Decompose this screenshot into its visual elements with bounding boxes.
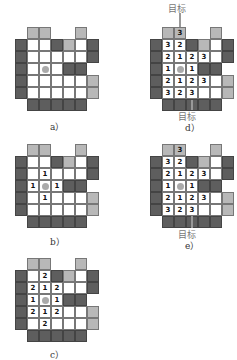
grid-cell — [87, 99, 99, 111]
grid-cell — [75, 204, 87, 216]
grid-cell: 3 — [162, 39, 174, 51]
grid-cell — [75, 318, 87, 330]
grid-cell — [198, 99, 210, 111]
grid-cell — [186, 39, 198, 51]
grid-cell — [150, 75, 162, 87]
grid-cell — [75, 294, 87, 306]
grid-cell — [63, 168, 75, 180]
grid-cell — [63, 99, 75, 111]
grid-cell — [39, 87, 51, 99]
grid-cell — [63, 318, 75, 330]
grid-cell — [198, 27, 210, 39]
start-dot-icon — [42, 66, 49, 73]
grid-cell — [198, 87, 210, 99]
grid-cell — [63, 87, 75, 99]
grid-cell: 3 — [186, 87, 198, 99]
grid-cell — [210, 63, 222, 75]
grid-cell: 1 — [27, 294, 39, 306]
grid-a — [15, 27, 99, 111]
grid-cell — [63, 75, 75, 87]
grid-cell — [15, 99, 27, 111]
grid-cell — [87, 216, 99, 228]
grid-cell: 2 — [174, 39, 186, 51]
grid-cell — [75, 270, 87, 282]
grid-cell: 3 — [198, 51, 210, 63]
grid-cell: 3 — [186, 204, 198, 216]
grid-cell — [15, 39, 27, 51]
grid-cell — [15, 180, 27, 192]
grid-cell — [63, 156, 75, 168]
grid-c: 2212112122 — [15, 258, 99, 342]
grid-cell — [150, 87, 162, 99]
grid-cell — [198, 39, 210, 51]
grid-cell — [87, 156, 99, 168]
grid-cell: 1 — [174, 75, 186, 87]
grid-cell — [222, 168, 234, 180]
grid-cell — [198, 180, 210, 192]
start-dot-icon — [177, 66, 184, 73]
grid-cell: 2 — [174, 87, 186, 99]
grid-cell — [51, 99, 63, 111]
grid-cell — [15, 318, 27, 330]
grid-cell — [63, 282, 75, 294]
grid-cell — [27, 258, 39, 270]
grid-cell — [51, 144, 63, 156]
grid-cell — [75, 156, 87, 168]
grid-cell — [15, 282, 27, 294]
grid-cell: 2 — [174, 204, 186, 216]
grid-cell — [75, 306, 87, 318]
target-label-e: 目标 — [178, 228, 196, 241]
grid-cell — [15, 168, 27, 180]
grid-cell — [63, 39, 75, 51]
grid-cell: 1 — [39, 282, 51, 294]
grid-cell: 3 — [162, 156, 174, 168]
grid-cell: 2 — [162, 51, 174, 63]
grid-cell: 1 — [162, 180, 174, 192]
grid-cell — [39, 99, 51, 111]
grid-cell — [87, 318, 99, 330]
grid-cell: 3 — [198, 75, 210, 87]
grid-cell — [210, 204, 222, 216]
grid-cell — [63, 180, 75, 192]
grid-cell — [87, 282, 99, 294]
grid-cell — [87, 75, 99, 87]
grid-cell — [15, 306, 27, 318]
grid-cell — [63, 27, 75, 39]
grid-cell — [222, 216, 234, 228]
grid-cell: 1 — [51, 294, 63, 306]
grid-cell — [51, 27, 63, 39]
grid-cell — [198, 63, 210, 75]
grid-cell — [162, 99, 174, 111]
grid-cell — [27, 39, 39, 51]
grid-cell — [39, 63, 51, 75]
grid-cell — [15, 192, 27, 204]
grid-cell: 2 — [51, 306, 63, 318]
grid-cell — [51, 168, 63, 180]
grid-cell — [15, 51, 27, 63]
grid-cell — [75, 168, 87, 180]
grid-cell — [15, 87, 27, 99]
grid-cell — [210, 51, 222, 63]
start-dot-icon — [42, 297, 49, 304]
grid-cell: 2 — [186, 168, 198, 180]
grid-cell — [87, 63, 99, 75]
grid-cell — [75, 282, 87, 294]
grid-cell — [27, 204, 39, 216]
grid-cell — [222, 51, 234, 63]
grid-cell — [27, 87, 39, 99]
grid-cell: 2 — [186, 51, 198, 63]
grid-cell — [150, 63, 162, 75]
grid-cell — [63, 204, 75, 216]
grid-cell — [87, 258, 99, 270]
grid-cell — [51, 258, 63, 270]
grid-cell — [150, 51, 162, 63]
target-label-d-bottom: 目标 — [178, 110, 196, 123]
grid-cell — [39, 144, 51, 156]
grid-cell — [87, 192, 99, 204]
grid-cell — [150, 144, 162, 156]
grid-cell — [87, 87, 99, 99]
grid-cell — [162, 144, 174, 156]
grid-cell — [87, 27, 99, 39]
grid-cell — [222, 144, 234, 156]
grid-cell: 2 — [39, 270, 51, 282]
